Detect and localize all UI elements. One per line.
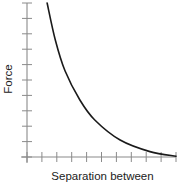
- axis-ticks: [22, 3, 176, 162]
- x-axis-label: Separation between: [40, 169, 165, 183]
- force-separation-chart: Force Separation between: [0, 0, 183, 183]
- force-curve: [47, 3, 176, 156]
- chart-canvas: [0, 0, 183, 183]
- y-axis-label: Force: [1, 59, 15, 99]
- axes: [21, 3, 176, 163]
